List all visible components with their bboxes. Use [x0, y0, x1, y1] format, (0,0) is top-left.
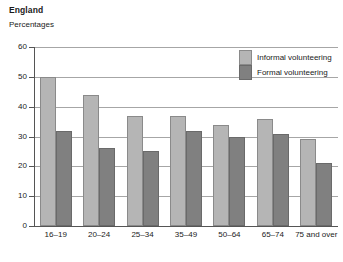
y-axis-line: [34, 47, 35, 227]
y-axis-label: 10: [18, 192, 27, 200]
x-axis-line: [34, 226, 338, 227]
bar-formal: [273, 134, 289, 226]
x-axis-label: 50–64: [208, 230, 251, 239]
y-axis-tick: [29, 166, 34, 167]
y-axis-tick: [29, 47, 34, 48]
bar-informal: [257, 119, 273, 226]
y-axis-label: 60: [18, 43, 27, 51]
bar-informal: [213, 125, 229, 226]
x-axis-label: 20–24: [77, 230, 120, 239]
y-axis-tick: [29, 226, 34, 227]
x-axis-label: 16–19: [34, 230, 77, 239]
legend-label-formal: Formal volunteering: [257, 68, 328, 77]
chart-subtitle: Percentages: [9, 20, 54, 30]
y-axis-label: 20: [18, 162, 27, 170]
bar-group: [40, 47, 72, 226]
x-axis-label: 65–74: [251, 230, 294, 239]
bar-formal: [56, 131, 72, 226]
bar-informal: [83, 95, 99, 226]
legend-swatch-formal: [239, 65, 252, 80]
y-axis-label: 50: [18, 73, 27, 81]
bar-formal: [186, 131, 202, 226]
x-axis-label: 25–34: [121, 230, 164, 239]
bar-informal: [170, 116, 186, 226]
y-axis-tick: [29, 196, 34, 197]
y-axis-tick: [29, 107, 34, 108]
bar-chart: England Percentages 0102030405060 16–192…: [0, 0, 343, 262]
bar-group: [127, 47, 159, 226]
bar-formal: [143, 151, 159, 226]
bar-formal: [229, 137, 245, 227]
y-axis-label: 0: [23, 222, 27, 230]
y-axis-tick: [29, 137, 34, 138]
bar-group: [170, 47, 202, 226]
y-axis-label: 40: [18, 103, 27, 111]
bar-informal: [40, 77, 56, 226]
legend-swatch-informal: [239, 50, 252, 65]
x-axis-label: 75 and over: [295, 230, 338, 239]
chart-title: England: [9, 5, 43, 15]
x-axis-label: 35–49: [164, 230, 207, 239]
bar-formal: [99, 148, 115, 226]
bar-informal: [127, 116, 143, 226]
legend-label-informal: Informal volunteering: [257, 53, 332, 62]
bar-informal: [300, 139, 316, 226]
bar-group: [83, 47, 115, 226]
y-axis-tick: [29, 77, 34, 78]
y-axis-label: 30: [18, 133, 27, 141]
bar-formal: [316, 163, 332, 226]
